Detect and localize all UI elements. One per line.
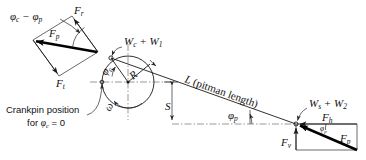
radius-R-tick: [150, 60, 156, 66]
force-pitman-left-label: Fp: [48, 27, 60, 41]
force-pitman-right-label: Fp: [339, 132, 351, 146]
pitman-angle-label: φp: [228, 109, 238, 123]
slider-crank-force-diagram: φc − φp Fr Fp Ft: [0, 0, 366, 160]
slider-weight-leader: [298, 108, 308, 121]
angle-difference-label: φc − φp: [10, 10, 42, 24]
crank-angle-label: φc: [98, 62, 115, 78]
crankpin-note-line2: for φc = 0: [27, 117, 65, 129]
left-force-parallelogram: [33, 16, 98, 76]
slider-weight-label: Ws + W2: [309, 97, 347, 111]
crank-weight-label: Wc + W1: [124, 35, 162, 49]
offset-s-label: S: [165, 100, 171, 112]
angle-label-leader: [60, 19, 80, 33]
force-radial-vector: [74, 19, 98, 52]
crank-radius-label: R: [126, 68, 140, 82]
force-tangential-label: Ft: [55, 77, 66, 91]
crankpin-note-group: [87, 84, 102, 115]
angular-velocity-label: ω: [101, 100, 115, 113]
crank-weight-leader-group: [112, 47, 122, 56]
pitman-angle-group: [250, 110, 252, 124]
force-horizontal-label: Fh: [321, 111, 333, 125]
force-pitman-left-vector: [36, 41, 97, 52]
crankpin-note-line1: Crankpin position: [6, 104, 79, 115]
force-vertical-label: Fv: [280, 136, 292, 150]
figure-canvas: φc − φp Fr Fp Ft: [0, 0, 366, 160]
crank-weight-leader: [112, 47, 122, 56]
force-radial-label: Fr: [73, 4, 84, 18]
pitman-length-label: L (pitman length): [182, 72, 260, 111]
crankpin-note-leader: [87, 84, 102, 115]
